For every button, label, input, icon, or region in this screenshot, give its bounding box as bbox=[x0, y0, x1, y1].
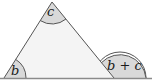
triangle-diagram: b c b + c bbox=[0, 0, 152, 82]
angle-b-label: b bbox=[11, 63, 19, 78]
angle-c-label: c bbox=[47, 4, 55, 19]
exterior-angle-label: b + c bbox=[107, 58, 142, 73]
